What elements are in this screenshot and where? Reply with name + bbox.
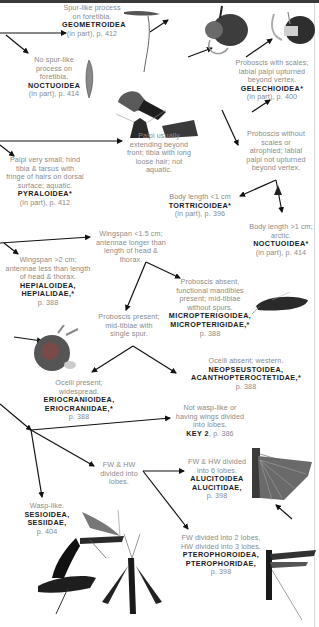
node-desc: Proboscis present; mid-tibiae with singl… bbox=[98, 313, 160, 339]
noctuid-foreleg-illustration bbox=[80, 58, 98, 100]
node-geometroidea: Spur-like process on foretibia. GEOMETRO… bbox=[62, 4, 122, 38]
taxon-name: MICROPTERIGOIDEA, MICROPTERIGIDAE,* bbox=[168, 312, 252, 329]
page-ref: p. 398 bbox=[184, 492, 250, 501]
node-desc: FW & HW divided into lobes. bbox=[96, 461, 142, 487]
node-micropterigoidea: Proboscis absent, functional mandibles p… bbox=[168, 278, 252, 338]
node-desc: Wingspan >2 cm; antennae less than lengt… bbox=[4, 256, 92, 282]
node-proboscis-present: Proboscis present; mid-tibiae with singl… bbox=[98, 313, 160, 339]
node-key2: Not wasp-like or having wings divided in… bbox=[174, 404, 246, 438]
node-desc: Proboscis absent, functional mandibles p… bbox=[168, 278, 252, 312]
node-desc: Palpi very small; hind tibia & tarsus wi… bbox=[6, 156, 84, 190]
page-ref: (in part), p. 412 bbox=[6, 199, 84, 208]
node-desc: FW divided into 2 lobes, HW divided into… bbox=[178, 534, 264, 551]
node-desc: Body length >1 cm; arctic. bbox=[246, 223, 316, 240]
page-ref: (in part), p. 414 bbox=[246, 249, 316, 258]
taxon-name: SESIOIDEA, SESIIDAE, bbox=[22, 511, 72, 528]
gelechioid-head-palpi-illustration bbox=[264, 10, 316, 54]
noctuid-small-head-illustration bbox=[270, 183, 290, 197]
page-ref: p. 388 bbox=[168, 330, 252, 339]
page-ref: (in part), p. 412 bbox=[62, 30, 122, 39]
page-ref: (in part), p. 396 bbox=[158, 210, 242, 219]
page-ref: p. 388 bbox=[4, 299, 92, 308]
alucitid-plume-moth-illustration bbox=[250, 446, 314, 502]
node-pterophoroidea: FW divided into 2 lobes, HW divided into… bbox=[178, 534, 264, 577]
node-wingspan-small: Wingspan <1.5 cm; antennae longer than l… bbox=[94, 230, 168, 264]
node-gelechioidea: Proboscis with scales; labial palpi uptu… bbox=[228, 59, 316, 102]
page-ref: (in part), p. 400 bbox=[228, 93, 316, 102]
node-pyraloidea: Palpi very small; hind tibia & tarsus wi… bbox=[6, 156, 84, 208]
node-desc: Proboscis with scales; labial palpi uptu… bbox=[228, 59, 316, 85]
eriocraniid-head-illustration bbox=[30, 325, 82, 377]
node-tortricoidea: Body length <1 cm TORTRICOIDEA* (in part… bbox=[158, 193, 242, 219]
node-eriocranioidea: Ocelli present; widespread. ERIOCRANIOID… bbox=[36, 379, 122, 422]
taxon-name: ERIOCRANIOIDEA, ERIOCRANIIDAE,* bbox=[36, 396, 122, 413]
taxon-name: NEOPSEUSTOIDEA, ACANTHOPTEROCTETIDAE,* bbox=[178, 366, 314, 383]
taxon-name: ALUCITOIDEA ALUCITIDAE, bbox=[184, 475, 250, 492]
taxon-name: PTEROPHOROIDEA, PTEROPHORIDAE, bbox=[178, 551, 264, 568]
page-ref: , p. 386 bbox=[209, 429, 234, 438]
micropterigid-moth-illustration bbox=[250, 290, 312, 318]
page-ref: (in part), p. 414 bbox=[28, 90, 80, 99]
node-desc: Palpi usually extending beyond front; ti… bbox=[124, 132, 194, 175]
taxon-name: HEPIALOIDEA, HEPIALIDAE,* bbox=[4, 282, 92, 299]
node-palpi-usually: Palpi usually extending beyond front; ti… bbox=[124, 132, 194, 175]
node-alucitoidea: FW & HW divided into 6 lobes. ALUCITOIDE… bbox=[184, 458, 250, 501]
node-desc: Proboscis without scales or atrophied; l… bbox=[244, 130, 308, 173]
node-desc: Not wasp-like or having wings divided in… bbox=[174, 404, 246, 430]
node-fw-hw-lobes: FW & HW divided into lobes. bbox=[96, 461, 142, 487]
node-desc: Wingspan <1.5 cm; antennae longer than l… bbox=[94, 230, 168, 264]
geometrid-foreleg-illustration bbox=[120, 6, 168, 76]
page-ref: p. 398 bbox=[178, 568, 264, 577]
moth-head-proboscis-illustration bbox=[198, 4, 252, 60]
taxon-name: KEY 2 bbox=[186, 429, 209, 438]
node-desc: Spur-like process on foretibia. bbox=[62, 4, 122, 21]
node-desc: Ocelli present; widespread. bbox=[36, 379, 122, 396]
page-ref: p. 388 bbox=[178, 383, 314, 392]
key2-link[interactable]: KEY 2, p. 386 bbox=[186, 429, 233, 438]
node-hepialoidea: Wingspan >2 cm; antennae less than lengt… bbox=[4, 256, 92, 308]
page-ref: p. 404 bbox=[22, 528, 72, 537]
node-noctuoidea-1: No spur-like process on foretibia. NOCTU… bbox=[28, 56, 80, 99]
node-sesioidea: Wasp-like. SESIOIDEA, SESIIDAE, p. 404 bbox=[22, 502, 72, 536]
node-desc: FW & HW divided into 6 lobes. bbox=[184, 458, 250, 475]
node-desc: No spur-like process on foretibia. bbox=[28, 56, 80, 82]
node-neopseustoidea: Ocelli absent; western. NEOPSEUSTOIDEA, … bbox=[178, 357, 314, 391]
pterophorid-plume-moth-illustration bbox=[262, 548, 318, 624]
node-proboscis-without-scales: Proboscis without scales or atrophied; l… bbox=[244, 130, 308, 173]
node-noctuoidea-2: Body length >1 cm; arctic. NOCTUOIDEA* (… bbox=[246, 223, 316, 257]
page-ref: p. 388 bbox=[36, 413, 122, 422]
